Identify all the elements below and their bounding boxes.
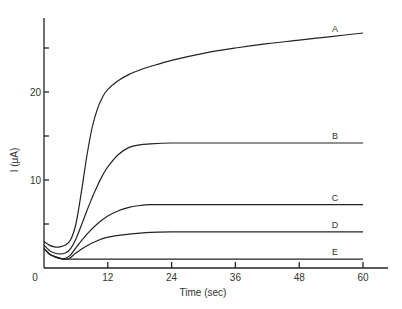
x-ticks: 01224364860: [32, 262, 369, 283]
x-tick-label: 60: [357, 272, 369, 283]
y-tick-label: 10: [30, 175, 42, 186]
curve-label-b: B: [332, 131, 338, 141]
x-axis-title: Time (sec): [180, 287, 227, 298]
x-tick-label: 36: [230, 272, 242, 283]
y-axis-title: I (μA): [9, 148, 20, 173]
curves: [44, 33, 363, 259]
curve-d: [44, 232, 363, 259]
chart: 01224364860 1020 ABCDE Time (sec) I (μA): [0, 0, 402, 309]
y-tick-label: 20: [30, 87, 42, 98]
x-tick-label: 24: [166, 272, 178, 283]
x-tick-label: 48: [294, 272, 306, 283]
curve-b: [44, 143, 363, 254]
curve-a: [44, 33, 363, 247]
x-tick-label: 0: [32, 272, 38, 283]
curve-label-d: D: [332, 220, 339, 230]
curve-label-c: C: [332, 193, 339, 203]
curve-e: [44, 249, 363, 260]
curve-label-a: A: [332, 24, 338, 34]
y-ticks: 1020: [30, 48, 49, 224]
x-tick-label: 12: [102, 272, 114, 283]
curve-label-e: E: [332, 247, 338, 257]
curve-labels: ABCDE: [332, 24, 339, 258]
